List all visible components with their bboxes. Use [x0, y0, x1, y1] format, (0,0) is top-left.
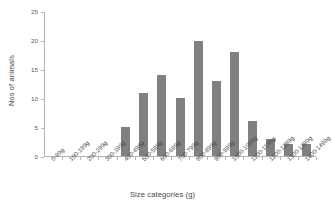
- y-tick-label: 20: [20, 38, 38, 44]
- y-tick-mark: [41, 12, 44, 13]
- y-axis-title: Nos of animals: [2, 0, 20, 160]
- y-tick-label: 25: [20, 9, 38, 15]
- y-tick-mark: [41, 99, 44, 100]
- y-axis-tick-labels: 0510152025: [20, 12, 38, 157]
- y-tick-mark: [41, 128, 44, 129]
- y-tick-mark: [41, 41, 44, 42]
- y-axis-title-text: Nos of animals: [7, 55, 16, 106]
- x-axis-tick-labels: 0-99g100-199g200-299g300-399g400-499g500…: [44, 158, 324, 192]
- y-tick-label: 15: [20, 67, 38, 73]
- x-axis-title: Size categories (g): [0, 190, 325, 199]
- y-tick-label: 0: [20, 154, 38, 160]
- bars-layer: [44, 12, 316, 156]
- y-tick-mark: [41, 70, 44, 71]
- y-tick-label: 5: [20, 125, 38, 131]
- y-tick-label: 10: [20, 96, 38, 102]
- plot-area: [44, 12, 316, 157]
